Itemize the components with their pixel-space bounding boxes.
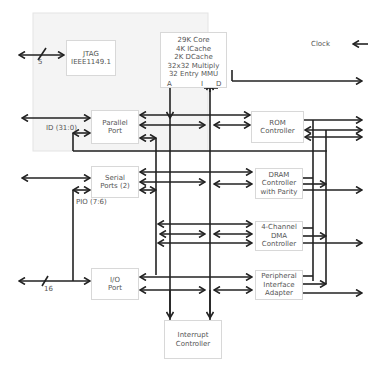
block-label: Controller [176,340,210,349]
core-line: 29K Core [178,36,210,45]
core-line: 32 Entry MMU [169,70,218,79]
block-label: Port [108,284,122,293]
jtag-standard: IEEE1149.1 [71,58,111,67]
interrupt-controller-block: Interrupt Controller [164,320,222,359]
block-label: Controller [260,127,294,136]
block-label: Serial [105,174,125,183]
jtag-title: JTAG [83,50,99,59]
rom-controller-block: ROM Controller [251,111,304,143]
id-bus-label: ID (31:0) [46,124,77,132]
dma-controller-block: 4-Channel DMA Controller [255,221,303,251]
block-label: I/O [110,276,120,285]
core-port-a: A [167,80,172,88]
io-port-block: I/O Port [91,268,139,300]
block-label: DRAM [269,171,290,180]
pia-block: Peripheral Interface Adapter [255,270,303,300]
block-label: Ports (2) [100,182,130,191]
block-label: Parallel [102,119,128,128]
block-label: Port [108,127,122,136]
core-port-d: D [216,80,221,88]
block-label: with Parity [261,188,298,197]
core-line: 32x32 Multiply [168,62,220,71]
dram-controller-block: DRAM Controller with Parity [255,168,303,199]
pio-bus-label: PIO (7:6) [76,198,107,206]
jtag-block: JTAG IEEE1149.1 [66,40,116,76]
parallel-port-block: Parallel Port [91,110,139,144]
block-label: DMA Controller [256,232,302,249]
block-label: ROM [269,119,285,128]
block-label: 4-Channel [261,223,297,232]
block-label: Adapter [265,289,293,298]
serial-ports-block: Serial Ports (2) [91,166,139,198]
block-label: Controller [262,179,296,188]
core-port-i: I [201,80,203,88]
block-label: Interface [263,281,294,290]
block-label: Interrupt [178,331,209,340]
jtag-width-label: 5 [38,58,42,66]
core-line: 4K ICache [176,45,211,54]
core-line: 2K DCache [174,53,212,62]
clock-label: Clock [311,40,330,48]
io-width-label: 16 [44,285,53,293]
block-label: Peripheral [261,272,296,281]
